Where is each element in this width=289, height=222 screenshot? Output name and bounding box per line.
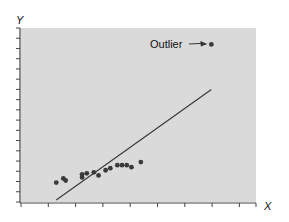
x-axis-label: X: [263, 200, 272, 212]
arrow-shaft: [189, 43, 202, 44]
data-point: [138, 160, 143, 165]
data-point: [84, 171, 89, 176]
outlier-label: Outlier: [150, 38, 183, 50]
data-point: [129, 165, 134, 170]
data-point: [115, 163, 120, 168]
data-point: [209, 42, 214, 47]
data-point: [63, 178, 68, 183]
data-point: [108, 166, 113, 171]
data-point: [91, 170, 96, 175]
data-point: [124, 163, 129, 168]
data-point: [96, 173, 101, 178]
data-point: [103, 168, 108, 173]
scatter-chart: Outlier Y X: [0, 0, 289, 222]
data-point: [120, 163, 125, 168]
data-point: [54, 180, 59, 185]
plot-area: [21, 28, 256, 202]
data-point: [80, 172, 85, 177]
y-axis-label: Y: [16, 14, 24, 26]
